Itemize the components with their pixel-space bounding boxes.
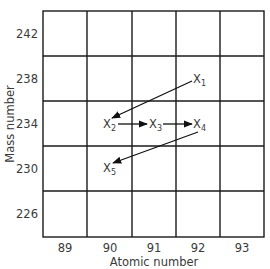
node-x4: X4 [193,117,206,133]
y-axis-ticks: 242 238 234 230 226 [16,27,38,221]
y-tick-label: 226 [16,207,38,221]
x-tick-label: 93 [235,241,250,255]
node-x1: X1 [193,72,206,88]
y-tick-label: 238 [16,72,38,86]
x-axis-ticks: 89 90 91 92 93 [58,241,250,255]
x-tick-label: 89 [58,241,73,255]
x-axis-title: Atomic number [110,255,199,269]
y-axis-title: Mass number [3,85,17,163]
x-tick-label: 90 [103,241,118,255]
node-x2: X2 [103,117,116,133]
x-tick-label: 92 [191,241,206,255]
node-x5: X5 [103,161,116,177]
y-tick-label: 230 [16,162,38,176]
arrow-x4-to-x5 [113,132,198,163]
y-tick-label: 234 [16,117,38,131]
y-tick-label: 242 [16,27,38,41]
x-tick-label: 91 [147,241,162,255]
decay-chain-diagram: 242 238 234 230 226 89 90 91 92 93 Atomi… [0,0,270,269]
arrow-x1-to-x2 [112,81,192,118]
node-x3: X3 [149,117,162,133]
